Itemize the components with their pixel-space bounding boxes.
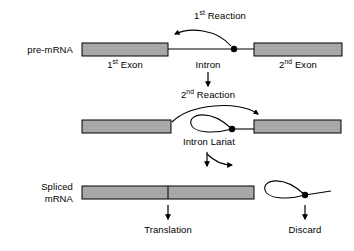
branch-point-dot-row3 [302, 192, 308, 198]
first-reaction-label: 1st Reaction [194, 10, 246, 21]
diagram-graphics [0, 0, 354, 251]
second-exon-label-rest: Exon [292, 59, 317, 70]
second-reaction-label-rest: Reaction [194, 89, 235, 100]
second-reaction-arrow [172, 106, 258, 122]
second-exon-box [254, 43, 342, 56]
discarded-lariat-tail [305, 191, 331, 195]
fork-arrows [207, 152, 232, 166]
second-reaction-label: 2nd Reaction [181, 89, 235, 100]
second-exon-box-row2 [254, 120, 341, 133]
discard-label: Discard [289, 224, 322, 235]
second-reaction-label-suffix: nd [186, 88, 194, 95]
second-exon-label-suffix: nd [284, 58, 292, 65]
spliced-mrna-label: Spliced mRNA [41, 181, 73, 204]
first-exon-label: 1st Exon [107, 59, 143, 70]
row3-products [82, 181, 331, 199]
first-exon-box [82, 43, 168, 56]
intron-lariat-label: Intron Lariat [183, 136, 235, 147]
row1-pre-mrna [82, 30, 342, 56]
intron-label: Intron [196, 59, 221, 70]
splicing-diagram: pre-mRNA 1st Exon Intron 2nd Exon 1st Re… [0, 0, 354, 251]
first-reaction-label-rest: Reaction [205, 10, 246, 21]
second-exon-label: 2nd Exon [279, 59, 317, 70]
first-exon-box-row2 [82, 120, 171, 133]
branch-point-dot-row1 [231, 46, 237, 52]
first-reaction-arrow [175, 30, 231, 46]
fork-arrow-to-discard [207, 154, 232, 165]
intron-lariat-loop-row2 [191, 115, 232, 132]
discarded-lariat-loop [265, 181, 305, 198]
row2-lariat-intermediate [82, 106, 341, 133]
pre-mrna-label: pre-mRNA [27, 44, 73, 55]
branch-point-dot-row2 [229, 126, 235, 132]
first-exon-label-rest: Exon [118, 59, 143, 70]
translation-label: Translation [144, 224, 192, 235]
